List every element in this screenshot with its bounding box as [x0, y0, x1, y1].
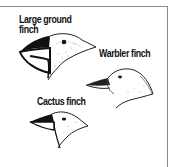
cactus-finch-illustration: [28, 108, 90, 150]
warbler-finch-label: Warbler finch: [99, 49, 150, 59]
warbler-finch-illustration: [84, 64, 156, 108]
cactus-finch-label: Cactus finch: [37, 97, 86, 107]
